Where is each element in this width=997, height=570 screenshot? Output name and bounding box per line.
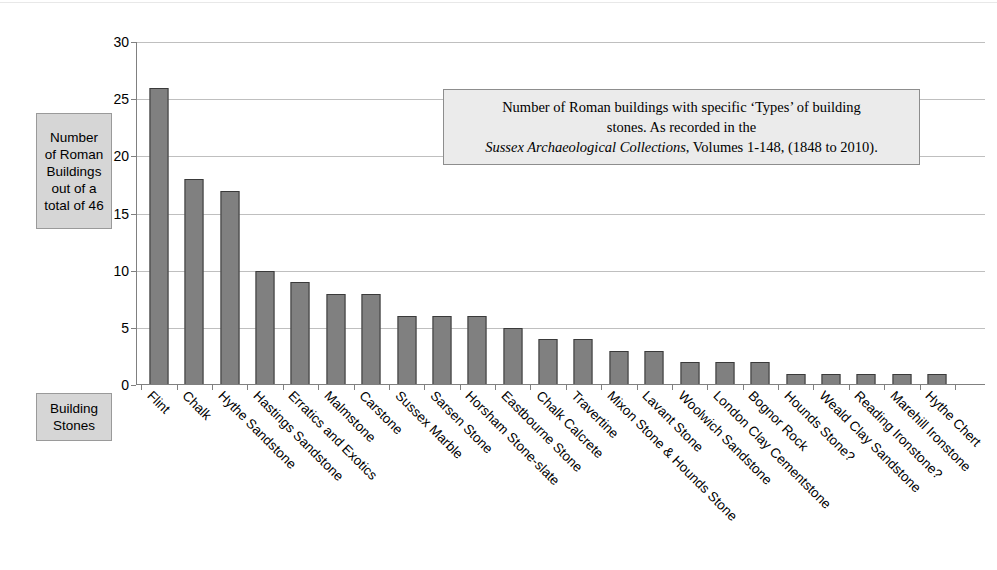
bar[interactable] (432, 316, 451, 385)
annotation-line-3: Sussex Archaeological Collections, Volum… (485, 137, 878, 157)
x-axis-category-label: Flint (144, 388, 173, 417)
bar[interactable] (185, 179, 204, 385)
bar[interactable] (397, 316, 416, 385)
annotation-textbox: Number of Roman buildings with specific … (443, 89, 920, 165)
bar[interactable] (715, 362, 734, 385)
bar-slot (141, 42, 176, 385)
x-axis-title-text: Building Stones (50, 400, 98, 434)
bar-slot (318, 42, 353, 385)
y-axis-title: Number of Roman Buildings out of a total… (36, 113, 112, 229)
y-tick-label: 25 (113, 91, 129, 107)
bar[interactable] (256, 271, 275, 385)
annotation-volumes: , Volumes 1-148, (1848 to 2010). (686, 139, 878, 155)
bar[interactable] (362, 294, 381, 385)
bar[interactable] (326, 294, 345, 385)
bar[interactable] (645, 351, 664, 385)
bar-slot (212, 42, 247, 385)
bar[interactable] (149, 88, 168, 385)
annotation-line-1: Number of Roman buildings with specific … (502, 97, 861, 117)
bar-slot (283, 42, 318, 385)
bar[interactable] (680, 362, 699, 385)
y-tick-label: 0 (121, 377, 129, 393)
bar-slot (247, 42, 282, 385)
bar[interactable] (503, 328, 522, 385)
bar-slot (354, 42, 389, 385)
annotation-publication-title: Sussex Archaeological Collections (485, 139, 686, 155)
y-axis-title-text: Number of Roman Buildings out of a total… (44, 129, 103, 214)
y-tick-mark (131, 385, 136, 386)
bar[interactable] (751, 362, 770, 385)
y-tick-label: 5 (121, 320, 129, 336)
bar-slot (177, 42, 212, 385)
bar[interactable] (609, 351, 628, 385)
annotation-line-2: stones. As recorded in the (607, 117, 756, 137)
bar[interactable] (468, 316, 487, 385)
bar[interactable] (574, 339, 593, 385)
y-tick-label: 30 (113, 34, 129, 50)
top-divider (0, 2, 997, 3)
x-axis-title: Building Stones (36, 393, 112, 441)
x-axis-line (136, 384, 985, 385)
bar-slot (955, 42, 990, 385)
bar-slot (389, 42, 424, 385)
bar[interactable] (291, 282, 310, 385)
bar[interactable] (220, 191, 239, 385)
bar[interactable] (539, 339, 558, 385)
y-tick-label: 15 (113, 206, 129, 222)
y-tick-label: 10 (113, 263, 129, 279)
x-axis-labels: FlintChalkHythe SandstoneHastings Sandst… (136, 388, 985, 568)
y-tick-label: 20 (113, 148, 129, 164)
x-axis-category-label: Chalk (180, 388, 215, 423)
bar-slot (920, 42, 955, 385)
